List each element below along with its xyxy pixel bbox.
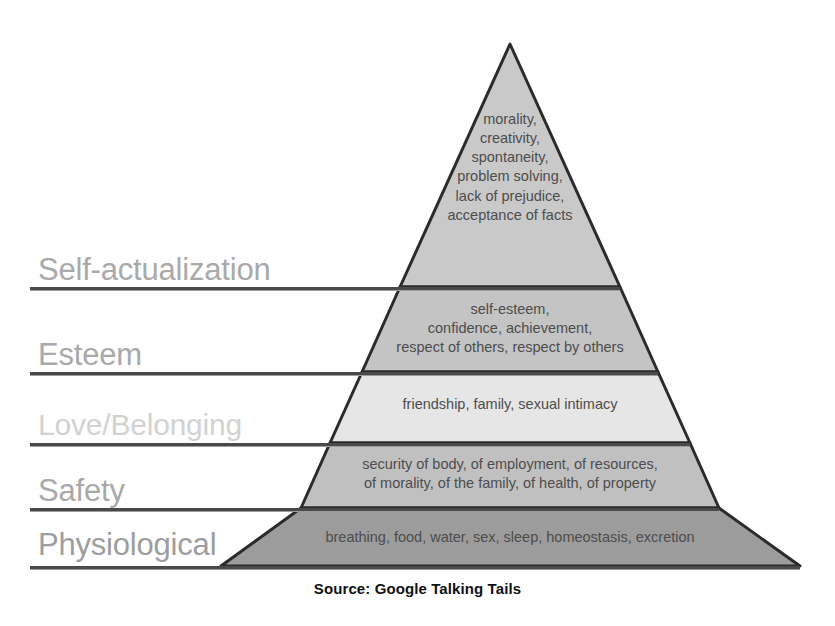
- tier-rule-physiological: [30, 566, 800, 569]
- tier-label-self-actualization: Self-actualization: [38, 252, 270, 288]
- pyramid-band-safety: [301, 443, 719, 508]
- pyramid-band-love-belonging: [330, 372, 690, 443]
- pyramid-band-esteem: [362, 287, 658, 372]
- source-caption: Source: Google Talking Tails: [0, 580, 835, 597]
- tier-rule-love-belonging: [30, 443, 690, 446]
- maslow-hierarchy-diagram: Self-actualization Esteem Love/Belonging…: [0, 0, 835, 626]
- tier-label-safety: Safety: [38, 473, 125, 509]
- tier-label-physiological: Physiological: [38, 527, 216, 563]
- tier-label-esteem: Esteem: [38, 337, 142, 373]
- pyramid-band-physiological: [221, 508, 800, 566]
- tier-label-love-belonging: Love/Belonging: [38, 408, 242, 442]
- pyramid-band-self-actualization: [400, 44, 620, 287]
- tier-rule-safety: [30, 508, 719, 511]
